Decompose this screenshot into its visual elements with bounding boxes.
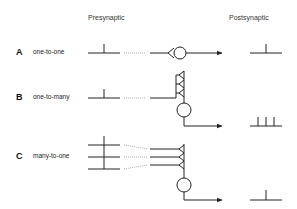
synapse-bouton-icon (179, 71, 184, 79)
dotted-connection (124, 165, 148, 169)
presynaptic-spikes-icon (88, 136, 120, 169)
synapse-bouton-icon (179, 80, 184, 88)
axon-arrow-icon (184, 192, 222, 200)
postsynaptic-spike-train-icon (250, 117, 282, 126)
neuron-soma-icon (174, 47, 186, 59)
presynaptic-spike-icon (88, 44, 120, 53)
synapse-bouton-icon (179, 161, 184, 169)
row-b-diagram (88, 71, 282, 126)
presynaptic-spike-icon (88, 89, 120, 98)
neuron-soma-icon (177, 103, 191, 117)
connectivity-diagram (0, 0, 297, 209)
synapse-bouton-icon (179, 89, 184, 97)
neuron-soma-icon (177, 178, 191, 192)
postsynaptic-spike-icon (250, 190, 282, 200)
row-c-diagram (88, 136, 282, 200)
dotted-connection (124, 145, 148, 149)
axon-arrow-icon (184, 117, 222, 126)
postsynaptic-spike-icon (250, 44, 282, 53)
row-a-diagram (88, 44, 282, 59)
synapse-bouton-icon (179, 153, 184, 161)
synapse-bouton-icon (179, 145, 184, 153)
synapse-bouton-icon (168, 48, 174, 58)
